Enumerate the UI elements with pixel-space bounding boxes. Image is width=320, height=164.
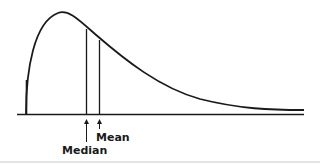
mean-label: Mean bbox=[96, 131, 130, 144]
median-arrow-icon bbox=[84, 119, 89, 142]
bottom-divider bbox=[0, 161, 320, 163]
median-label: Median bbox=[62, 144, 107, 157]
distribution-curve bbox=[26, 12, 304, 114]
mean-arrow-icon bbox=[97, 119, 102, 129]
skewed-distribution-diagram: Mean Median bbox=[0, 0, 320, 164]
